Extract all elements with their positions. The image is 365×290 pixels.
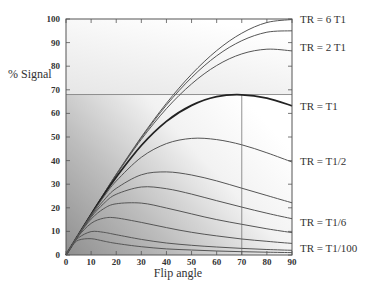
series-labels: TR = 6 T1TR = 2 T1TR = T1TR = T1/2TR = T… bbox=[300, 13, 358, 254]
y-tick-label: 30 bbox=[51, 179, 61, 189]
y-tick-label: 90 bbox=[51, 38, 61, 48]
x-tick-label: 20 bbox=[112, 257, 122, 267]
x-tick-label: 30 bbox=[137, 257, 147, 267]
series-label: TR = T1/100 bbox=[300, 242, 358, 254]
x-tick-label: 90 bbox=[288, 257, 298, 267]
y-tick-label: 70 bbox=[51, 85, 61, 95]
y-tick-label: 50 bbox=[51, 132, 61, 142]
x-tick-label: 0 bbox=[64, 257, 69, 267]
y-tick-label: 80 bbox=[51, 61, 61, 71]
y-tick-label: 100 bbox=[47, 14, 61, 24]
series-label: TR = T1 bbox=[300, 100, 338, 112]
x-tick-label: 10 bbox=[87, 257, 97, 267]
x-axis-title: Flip angle bbox=[154, 266, 202, 280]
y-tick-label: 60 bbox=[51, 108, 61, 118]
x-tick-label: 80 bbox=[262, 257, 272, 267]
series-label: TR = T1/6 bbox=[300, 216, 347, 228]
y-tick-label: 10 bbox=[51, 226, 61, 236]
shaded-region-background bbox=[66, 95, 292, 255]
x-tick-label: 70 bbox=[237, 257, 247, 267]
x-tick-label: 60 bbox=[212, 257, 222, 267]
y-tick-label: 20 bbox=[51, 203, 61, 213]
signal-vs-flip-angle-chart: 0102030405060708090010203040506070809010… bbox=[0, 0, 365, 290]
y-tick-label: 0 bbox=[56, 250, 61, 260]
y-tick-label: 40 bbox=[51, 156, 61, 166]
series-label: TR = 2 T1 bbox=[300, 41, 346, 53]
series-label: TR = T1/2 bbox=[300, 155, 346, 167]
upper-background bbox=[66, 19, 292, 95]
series-label: TR = 6 T1 bbox=[300, 13, 346, 25]
y-axis-title: % Signal bbox=[8, 67, 52, 81]
